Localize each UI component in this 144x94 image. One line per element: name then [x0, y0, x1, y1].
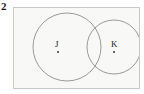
- set-circle-j: [33, 13, 101, 81]
- venn-circles-svg: [14, 8, 139, 88]
- universal-set-rectangle: J K: [13, 7, 140, 89]
- set-label-j: J: [55, 40, 59, 49]
- set-point-j: [57, 51, 59, 53]
- figure-number-label: 2: [1, 0, 7, 13]
- venn-diagram-figure: 2 J K: [0, 0, 144, 94]
- set-point-k: [113, 51, 115, 53]
- set-label-k: K: [111, 40, 118, 49]
